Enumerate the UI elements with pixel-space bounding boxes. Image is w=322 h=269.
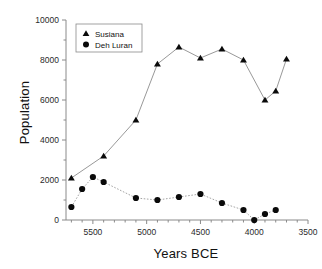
data-point-deh-luran [197,191,203,197]
data-point-susiana [283,56,290,62]
data-point-deh-luran [90,174,96,180]
y-tick-label: 6000 [40,95,59,105]
x-tick-label: 3500 [299,227,318,237]
x-tick-label: 4500 [191,227,210,237]
chart-canvas: 0200040006000800010000550050004500400035… [0,0,322,269]
data-point-deh-luran [219,200,225,206]
data-point-deh-luran [251,217,257,223]
data-point-susiana [68,175,75,181]
legend-label-deh-luran: Deh Luran [95,41,132,50]
y-tick-label: 4000 [40,135,59,145]
x-tick-label: 5000 [137,227,156,237]
chart-legend: SusianaDeh Luran [76,24,142,52]
x-tick-label: 5500 [83,227,102,237]
data-point-deh-luran [68,204,74,210]
x-axis-title: Years BCE [66,246,306,261]
chart-series-markers [68,44,290,223]
data-point-deh-luran [133,195,139,201]
y-axis-title: Population [17,53,32,173]
data-point-susiana [218,46,225,52]
population-chart-figure: 0200040006000800010000550050004500400035… [0,0,322,269]
y-tick-label: 8000 [40,55,59,65]
data-point-susiana [175,44,182,50]
y-tick-label: 0 [54,215,59,225]
data-point-deh-luran [176,194,182,200]
data-point-deh-luran [273,207,279,213]
data-point-susiana [240,57,247,63]
x-tick-label: 4000 [245,227,264,237]
data-point-deh-luran [101,179,107,185]
data-point-susiana [272,88,279,94]
data-point-susiana [197,55,204,61]
data-point-deh-luran [154,197,160,203]
data-point-susiana [132,117,139,123]
data-point-deh-luran [79,186,85,192]
y-tick-label: 10000 [35,15,59,25]
y-tick-label: 2000 [40,175,59,185]
legend-label-susiana: Susiana [95,30,124,39]
data-point-deh-luran [262,211,268,217]
data-point-deh-luran [240,207,246,213]
legend-marker-deh-luran [83,42,89,48]
